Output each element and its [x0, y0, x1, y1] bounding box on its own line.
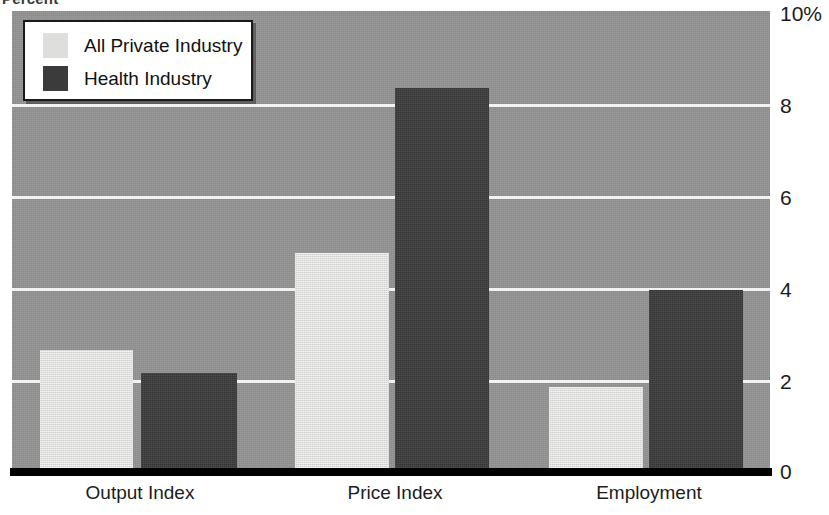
- gridline-8: [12, 104, 770, 107]
- bar-employment-all-private: [549, 387, 643, 474]
- bar-output-index-health: [141, 373, 237, 474]
- percent-axis-label: Percent: [2, 0, 58, 6]
- gridline-6: [12, 196, 770, 199]
- bar-price-index-all-private: [295, 253, 389, 474]
- y-tick-label-4: 4: [780, 279, 792, 300]
- x-axis-baseline: [10, 468, 772, 476]
- bar-chart: Percent 10% 8 6 4 2 0 Output Index Price…: [0, 0, 829, 515]
- x-tick-label-employment: Employment: [549, 482, 749, 504]
- legend: All Private Industry Health Industry: [23, 20, 253, 101]
- legend-item-health-industry: Health Industry: [43, 62, 251, 95]
- y-tick-label-2: 2: [780, 371, 792, 392]
- legend-swatch-health-industry: [43, 66, 68, 91]
- bar-employment-health: [649, 290, 743, 474]
- y-tick-label-0: 0: [780, 461, 792, 482]
- legend-label-all-private-industry: All Private Industry: [84, 35, 242, 57]
- x-tick-label-price-index: Price Index: [295, 482, 495, 504]
- legend-label-health-industry: Health Industry: [84, 68, 212, 90]
- x-tick-label-output-index: Output Index: [40, 482, 240, 504]
- y-tick-label-10: 10%: [780, 3, 822, 24]
- legend-item-all-private-industry: All Private Industry: [43, 29, 251, 62]
- y-tick-label-8: 8: [780, 95, 792, 116]
- y-tick-label-6: 6: [780, 187, 792, 208]
- bar-price-index-health: [395, 88, 489, 474]
- legend-swatch-all-private-industry: [43, 33, 68, 58]
- bar-output-index-all-private: [40, 350, 133, 474]
